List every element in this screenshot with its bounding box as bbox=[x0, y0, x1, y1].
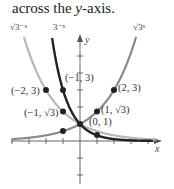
y-axis-label: y bbox=[84, 34, 90, 45]
point-2-3 bbox=[111, 87, 117, 93]
label-sqrt3-neg-x: √3⁻ˣ bbox=[10, 22, 27, 32]
label-point-m1-sqrt3: (−1, √3) bbox=[24, 107, 59, 119]
label-point-0-1: (0, 1) bbox=[89, 116, 112, 128]
point-1-third bbox=[94, 132, 100, 138]
point-m1-invsqrt3 bbox=[60, 128, 66, 134]
label-point-2-3: (2, 3) bbox=[118, 82, 141, 94]
y-axis-arrow-icon bbox=[77, 34, 83, 42]
label-point-m2-3: (−2, 3) bbox=[11, 85, 40, 97]
point-m2-3 bbox=[43, 87, 49, 93]
label-3-neg-x: 3⁻ˣ bbox=[53, 22, 66, 32]
point-m1-sqrt3 bbox=[60, 109, 66, 115]
label-sqrt3-x: √3ˣ bbox=[133, 22, 145, 32]
label-point-m1-3: (−1, 3) bbox=[65, 72, 94, 84]
point-0-1 bbox=[77, 121, 83, 127]
point-m1-3 bbox=[60, 87, 66, 93]
exponential-graph: x y √3⁻ˣ 3⁻ˣ √3ˣ (−2, 3) (−1, 3) (−1, √3… bbox=[0, 0, 174, 189]
x-axis-label: x bbox=[154, 143, 160, 154]
point-1-sqrt3 bbox=[94, 109, 100, 115]
y-axis bbox=[77, 40, 83, 184]
label-point-1-sqrt3: (1, √3) bbox=[101, 104, 130, 116]
